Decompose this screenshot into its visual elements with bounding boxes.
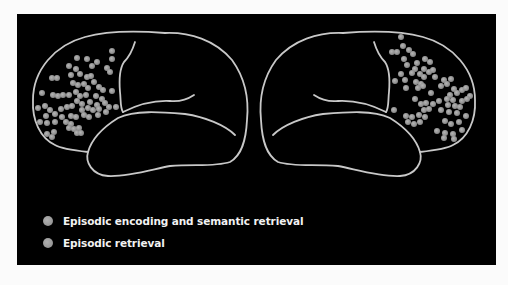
left-temporal-upper: [88, 112, 235, 152]
legend-item-encoding: Episodic encoding and semantic retrieval: [43, 210, 303, 232]
legend-label: Episodic encoding and semantic retrieval: [63, 215, 303, 227]
legend-dot-icon: [43, 238, 53, 248]
right-sylvian-fissure: [314, 95, 386, 112]
left-central-sulcus: [120, 42, 135, 112]
left-sylvian-fissure: [123, 95, 194, 112]
right-temporal-upper: [273, 112, 420, 152]
legend-label: Episodic retrieval: [63, 237, 165, 249]
left-brain-outline: [33, 32, 248, 177]
legend: Episodic encoding and semantic retrieval…: [43, 210, 303, 254]
right-hemisphere: [261, 32, 476, 177]
right-central-sulcus: [374, 42, 389, 112]
left-hemisphere: [33, 32, 248, 177]
legend-item-retrieval: Episodic retrieval: [43, 232, 303, 254]
legend-dot-icon: [43, 216, 53, 226]
